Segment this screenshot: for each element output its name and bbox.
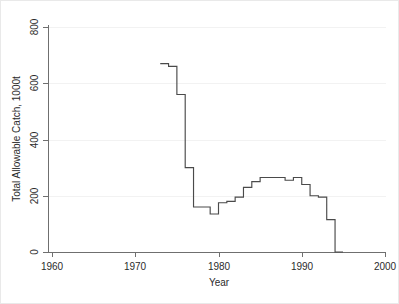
x-tick-label-1980: 1980 (208, 261, 231, 272)
x-tick-label-2000: 2000 (374, 261, 397, 272)
x-tick-label-1990: 1990 (291, 261, 314, 272)
x-axis-tick-labels: 1960 1970 1980 1990 2000 (41, 261, 397, 272)
chart-figure: 800 600 400 200 0 Total Allowable Catch,… (0, 0, 399, 304)
x-axis-title: Year (209, 277, 230, 288)
y-axis-title: Total Allowable Catch, 1000t (11, 76, 22, 202)
chart-canvas: 800 600 400 200 0 Total Allowable Catch,… (0, 0, 399, 304)
y-axis-tick-labels: 800 600 400 200 0 (29, 18, 40, 255)
y-tick-label-600: 600 (29, 74, 40, 91)
y-tick-label-200: 200 (29, 187, 40, 204)
x-tick-label-1960: 1960 (41, 261, 64, 272)
y-tick-label-0: 0 (29, 249, 40, 255)
plot-area-background (48, 25, 386, 252)
x-tick-label-1970: 1970 (124, 261, 147, 272)
y-tick-label-800: 800 (29, 18, 40, 35)
x-axis-ticks (52, 252, 385, 257)
y-tick-label-400: 400 (29, 131, 40, 148)
y-axis-ticks (43, 27, 48, 252)
